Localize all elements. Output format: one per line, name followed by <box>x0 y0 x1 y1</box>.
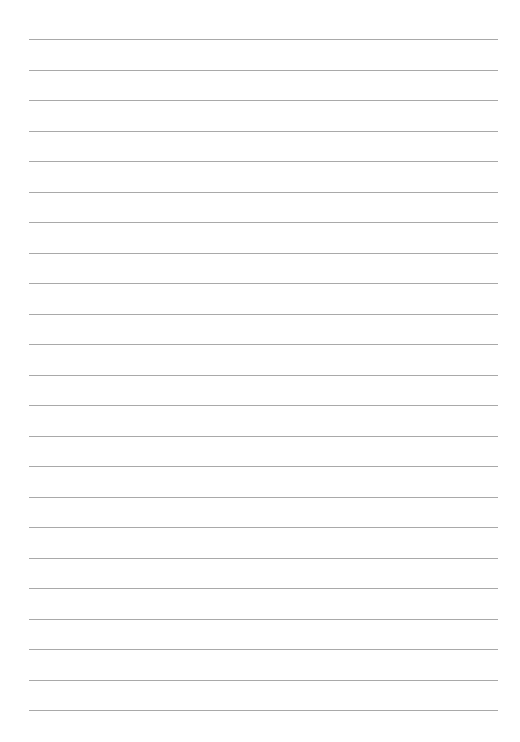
ruled-line <box>29 192 498 193</box>
ruled-line <box>29 39 498 40</box>
ruled-line <box>29 588 498 589</box>
ruled-line <box>29 558 498 559</box>
ruled-line <box>29 649 498 650</box>
ruled-line <box>29 527 498 528</box>
ruled-line <box>29 466 498 467</box>
ruled-line <box>29 710 498 711</box>
ruled-line <box>29 314 498 315</box>
ruled-line <box>29 131 498 132</box>
ruled-line <box>29 375 498 376</box>
ruled-line <box>29 436 498 437</box>
ruled-line <box>29 344 498 345</box>
ruled-line <box>29 70 498 71</box>
ruled-line <box>29 405 498 406</box>
ruled-line <box>29 497 498 498</box>
ruled-line <box>29 222 498 223</box>
lined-paper-page <box>0 0 520 742</box>
ruled-line <box>29 680 498 681</box>
ruled-line <box>29 283 498 284</box>
ruled-line <box>29 161 498 162</box>
ruled-line <box>29 100 498 101</box>
ruled-line <box>29 253 498 254</box>
ruled-line <box>29 619 498 620</box>
